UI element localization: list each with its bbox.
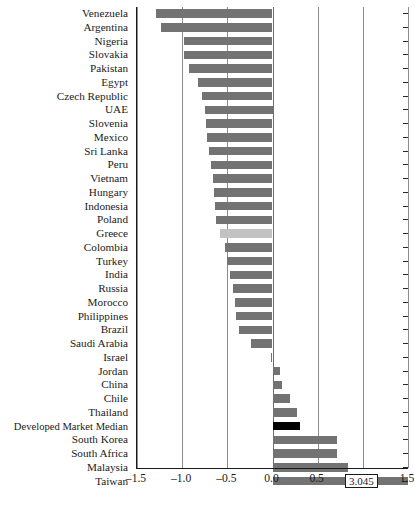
- bar-row: [137, 296, 407, 310]
- category-label: Vietnam: [0, 172, 132, 186]
- bar: [215, 202, 273, 211]
- bar: [273, 408, 297, 417]
- bar: [233, 284, 273, 293]
- bar-row: [137, 48, 407, 62]
- bar-row: [137, 406, 407, 420]
- bar: [230, 271, 272, 280]
- bar-row: [137, 255, 407, 269]
- bar-row: [137, 241, 407, 255]
- bar-row: [137, 76, 407, 90]
- category-label: Czech Republic: [0, 90, 132, 104]
- bar-row: [137, 351, 407, 365]
- bar: [211, 161, 272, 170]
- bar-row: [137, 323, 407, 337]
- bar-row: [137, 200, 407, 214]
- bar-row: [137, 103, 407, 117]
- row-tick: [403, 316, 408, 317]
- row-tick: [403, 371, 408, 372]
- category-label: India: [0, 268, 132, 282]
- row-tick: [403, 384, 408, 385]
- bar: [236, 312, 272, 321]
- category-label: Saudi Arabia: [0, 337, 132, 351]
- category-label: Colombia: [0, 241, 132, 255]
- bar-row: [137, 172, 407, 186]
- bar-row: [137, 392, 407, 406]
- category-label: Nigeria: [0, 35, 132, 49]
- category-label: UAE: [0, 103, 132, 117]
- bar: [156, 9, 273, 18]
- bar: [207, 133, 272, 142]
- x-axis-line: [136, 468, 408, 469]
- bar-row: [137, 337, 407, 351]
- bar: [205, 106, 273, 115]
- bar: [189, 64, 272, 73]
- row-tick: [403, 274, 408, 275]
- category-label: Greece: [0, 227, 132, 241]
- bar-row: [137, 90, 407, 104]
- row-tick: [403, 109, 408, 110]
- row-tick: [403, 288, 408, 289]
- value-callout: 3.045: [345, 474, 378, 488]
- row-tick: [403, 192, 408, 193]
- row-tick: [403, 343, 408, 344]
- bar: [184, 37, 273, 46]
- category-label: Egypt: [0, 76, 132, 90]
- row-tick: [403, 96, 408, 97]
- row-tick: [403, 453, 408, 454]
- bar: [273, 367, 280, 376]
- row-tick: [403, 302, 408, 303]
- bar: [271, 353, 273, 362]
- bar-row: [137, 447, 407, 461]
- bar: [216, 216, 273, 225]
- bar: [251, 339, 273, 348]
- bar: [225, 243, 273, 252]
- bar: [273, 449, 337, 458]
- category-label: China: [0, 378, 132, 392]
- row-tick: [403, 412, 408, 413]
- category-label: Venezuela: [0, 7, 132, 21]
- row-tick: [403, 247, 408, 248]
- bar: [184, 51, 273, 60]
- bar-row: [137, 21, 407, 35]
- bar-row: [137, 378, 407, 392]
- category-label: Argentina: [0, 21, 132, 35]
- category-label: Chile: [0, 392, 132, 406]
- category-label: Developed Market Median: [0, 420, 132, 434]
- category-label: Slovenia: [0, 117, 132, 131]
- row-tick: [403, 219, 408, 220]
- bar-row: [137, 310, 407, 324]
- bar: [235, 298, 273, 307]
- row-tick: [403, 151, 408, 152]
- bar: [202, 92, 272, 101]
- category-label: Pakistan: [0, 62, 132, 76]
- bar: [227, 257, 272, 266]
- bar-row: [137, 62, 407, 76]
- bar-row: [137, 420, 407, 434]
- category-label: Peru: [0, 158, 132, 172]
- bar-row: [137, 145, 407, 159]
- bar-row: [137, 7, 407, 21]
- row-tick: [403, 206, 408, 207]
- category-label: Sri Lanka: [0, 145, 132, 159]
- category-label: Israel: [0, 351, 132, 365]
- bar: [273, 394, 290, 403]
- category-label: Turkey: [0, 255, 132, 269]
- bar: [239, 326, 272, 335]
- category-label: Russia: [0, 282, 132, 296]
- bar-row: [137, 158, 407, 172]
- row-tick: [403, 233, 408, 234]
- bar-row: [137, 131, 407, 145]
- row-tick: [403, 13, 408, 14]
- bar: [273, 422, 300, 431]
- gridline-1_5: [408, 7, 409, 468]
- category-label: Philippines: [0, 310, 132, 324]
- row-tick: [403, 123, 408, 124]
- category-label: Thailand: [0, 406, 132, 420]
- row-tick: [403, 41, 408, 42]
- x-tick-label: 1.5: [400, 472, 415, 485]
- row-tick: [403, 426, 408, 427]
- category-label: Brazil: [0, 323, 132, 337]
- bar-row: [137, 213, 407, 227]
- bar: [206, 119, 273, 128]
- category-label: Slovakia: [0, 48, 132, 62]
